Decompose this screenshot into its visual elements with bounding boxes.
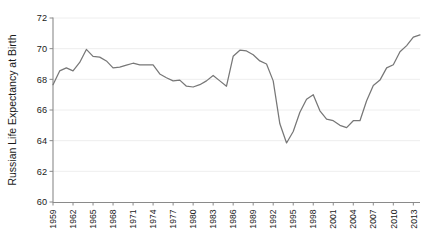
chart-background bbox=[0, 0, 433, 243]
x-tick-label: 1968 bbox=[108, 209, 118, 228]
line-chart: 60626466687072 1959196219651968197119741… bbox=[0, 0, 433, 243]
x-tick-label: 1992 bbox=[268, 209, 278, 228]
y-tick-label: 66 bbox=[37, 105, 47, 115]
x-tick-label: 2010 bbox=[389, 209, 399, 228]
x-tick-label: 1995 bbox=[288, 209, 298, 228]
y-tick-label: 72 bbox=[37, 13, 47, 23]
x-tick-label: 2001 bbox=[328, 209, 338, 228]
chart-container: 60626466687072 1959196219651968197119741… bbox=[0, 0, 433, 243]
x-tick-label: 1989 bbox=[248, 209, 258, 228]
y-tick-label: 64 bbox=[37, 136, 47, 146]
x-tick-label: 1962 bbox=[68, 209, 78, 228]
y-tick-label: 60 bbox=[37, 197, 47, 207]
x-tick-label: 1971 bbox=[128, 209, 138, 228]
x-tick-label: 1974 bbox=[148, 209, 158, 228]
y-tick-label: 70 bbox=[37, 44, 47, 54]
x-tick-label: 1959 bbox=[48, 209, 58, 228]
x-tick-label: 1998 bbox=[308, 209, 318, 228]
x-tick-label: 2013 bbox=[409, 209, 419, 228]
y-tick-label: 68 bbox=[37, 75, 47, 85]
x-tick-label: 1980 bbox=[188, 209, 198, 228]
x-tick-label: 1977 bbox=[168, 209, 178, 228]
x-tick-label: 2004 bbox=[348, 209, 358, 228]
x-tick-label: 2007 bbox=[368, 209, 378, 228]
x-tick-label: 1983 bbox=[208, 209, 218, 228]
y-tick-label: 62 bbox=[37, 167, 47, 177]
x-tick-label: 1986 bbox=[228, 209, 238, 228]
y-axis-title: Russian Life Expectancy at Birth bbox=[6, 34, 18, 185]
x-tick-label: 1965 bbox=[88, 209, 98, 228]
